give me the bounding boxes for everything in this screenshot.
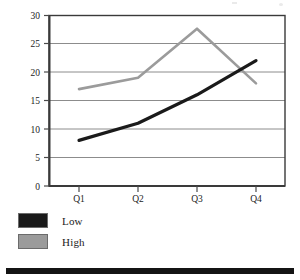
legend-swatch-low [18,213,48,228]
y-tick-label: 30 [31,11,41,21]
y-tick-label: 5 [35,153,40,163]
line-chart-figure: 30 25 20 15 10 5 0 Q1 Q2 Q3 Q4 Low High [0,0,300,280]
x-axis-tick-labels: Q1 Q2 Q3 Q4 [73,194,262,204]
gridlines [49,16,285,158]
y-axis-ticks [44,16,49,187]
y-tick-label: 10 [31,125,41,135]
x-tick-label: Q4 [250,194,262,204]
footer-rule [6,268,294,274]
series-line-high [79,29,256,89]
legend-item-low: Low [18,210,158,231]
legend-label-low: Low [62,215,83,227]
y-tick-label: 15 [31,96,41,106]
legend-item-high: High [18,231,158,252]
y-tick-label: 0 [35,182,40,192]
x-tick-label: Q1 [73,194,85,204]
y-axis-tick-labels: 30 25 20 15 10 5 0 [31,11,41,192]
x-tick-label: Q3 [191,194,203,204]
legend-swatch-high [18,234,48,249]
chart-legend: Low High [18,210,158,252]
legend-label-high: High [62,236,85,248]
x-tick-label: Q2 [132,194,144,204]
y-tick-label: 25 [31,39,41,49]
y-tick-label: 20 [31,68,41,78]
